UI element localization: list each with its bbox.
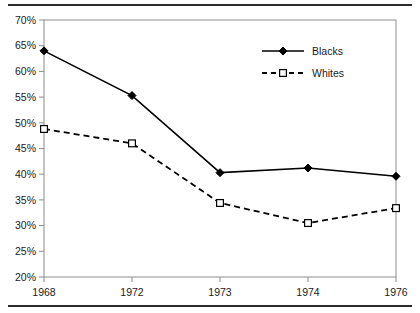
y-axis-tick-label: 20% [15, 271, 36, 283]
data-point-marker-diamond [392, 172, 400, 180]
data-point-marker-diamond [279, 47, 287, 55]
legend-label-blacks: Blacks [312, 45, 343, 57]
y-axis-tick-label: 50% [15, 117, 36, 129]
x-axis-tick-label: 1976 [384, 286, 408, 298]
x-axis-tick-label: 1968 [32, 286, 56, 298]
chart-legend: BlacksWhites [262, 45, 344, 79]
series-blacks [40, 47, 400, 180]
data-point-marker-square [280, 70, 287, 77]
legend-label-whites: Whites [312, 67, 344, 79]
y-axis-tick-label: 45% [15, 142, 36, 154]
data-point-marker-square [393, 205, 400, 212]
y-axis-tick-label: 70% [15, 14, 36, 26]
y-axis-tick-label: 25% [15, 245, 36, 257]
y-axis-tick-label: 30% [15, 219, 36, 231]
y-axis-tick-label: 40% [15, 168, 36, 180]
data-point-marker-square [305, 220, 312, 227]
data-point-marker-square [41, 126, 48, 133]
chart-figure: 70%65%60%55%50%45%40%35%30%25%20% 196819… [0, 0, 420, 313]
y-axis-tick-label: 55% [15, 91, 36, 103]
legend-item-blacks: Blacks [262, 45, 343, 57]
legend-item-whites: Whites [262, 67, 344, 79]
data-point-marker-square [217, 200, 224, 207]
x-axis-tick-group: 19681972197319741976 [32, 277, 408, 298]
y-axis-tick-label: 60% [15, 65, 36, 77]
plot-area-border [44, 20, 396, 277]
plot-border-rect [44, 20, 396, 277]
x-axis-tick-label: 1973 [208, 286, 232, 298]
x-axis-tick-label: 1972 [120, 286, 144, 298]
y-axis-tick-label: 65% [15, 39, 36, 51]
y-axis-tick-group: 70%65%60%55%50%45%40%35%30%25%20% [15, 14, 44, 283]
data-point-marker-diamond [40, 47, 48, 55]
x-axis-tick-label: 1974 [296, 286, 320, 298]
series-layer [40, 47, 400, 227]
y-axis-tick-label: 35% [15, 194, 36, 206]
line-chart: 70%65%60%55%50%45%40%35%30%25%20% 196819… [0, 0, 420, 313]
data-point-marker-square [129, 140, 136, 147]
data-point-marker-diamond [304, 164, 312, 172]
